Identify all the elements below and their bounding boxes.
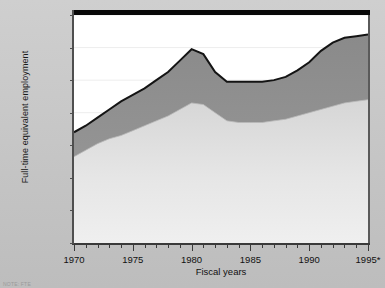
- x-tick-major: [309, 244, 310, 251]
- y-tick: [70, 178, 74, 179]
- x-tick-minor: [344, 244, 345, 248]
- y-tick: [70, 210, 74, 211]
- x-axis-line: [72, 243, 370, 245]
- x-tick-minor: [203, 244, 204, 248]
- x-tick-minor: [286, 244, 287, 248]
- x-tick-label: 1990: [299, 254, 320, 265]
- x-tick-label: 1995*: [356, 254, 381, 265]
- x-tick-major: [192, 244, 193, 251]
- x-tick-minor: [168, 244, 169, 248]
- x-tick-minor: [297, 244, 298, 248]
- x-tick-minor: [86, 244, 87, 248]
- stacked-area-series: [74, 15, 368, 243]
- x-tick-minor: [239, 244, 240, 248]
- x-tick-minor: [145, 244, 146, 248]
- chart-figure: Full-time equivalent employment: [0, 0, 385, 288]
- x-tick-label: 1975: [122, 254, 143, 265]
- x-tick-minor: [109, 244, 110, 248]
- y-tick: [70, 15, 74, 16]
- x-tick-major: [74, 244, 75, 251]
- x-tick-major: [133, 244, 134, 251]
- x-tick-major: [368, 244, 369, 251]
- x-tick-minor: [180, 244, 181, 248]
- x-tick-minor: [262, 244, 263, 248]
- x-tick-major: [250, 244, 251, 251]
- y-tick: [70, 80, 74, 81]
- x-tick-minor: [156, 244, 157, 248]
- chart-footnote: NOTE: FTE: [3, 281, 31, 287]
- x-tick-minor: [274, 244, 275, 248]
- x-tick-label: 1985: [240, 254, 261, 265]
- plot-right-border: [368, 15, 370, 245]
- x-tick-label: 1980: [181, 254, 202, 265]
- x-tick-minor: [98, 244, 99, 248]
- y-tick: [70, 48, 74, 49]
- y-tick: [70, 113, 74, 114]
- x-tick-label: 1970: [63, 254, 84, 265]
- plot-area: 020,00040,00060,00080,000100,000120,0001…: [74, 15, 368, 243]
- x-axis-title: Fiscal years: [74, 266, 368, 277]
- x-tick-minor: [321, 244, 322, 248]
- y-tick: [70, 145, 74, 146]
- x-tick-minor: [227, 244, 228, 248]
- y-axis-title: Full-time equivalent employment: [20, 7, 30, 227]
- x-tick-minor: [121, 244, 122, 248]
- x-tick-minor: [215, 244, 216, 248]
- x-tick-minor: [333, 244, 334, 248]
- x-tick-minor: [356, 244, 357, 248]
